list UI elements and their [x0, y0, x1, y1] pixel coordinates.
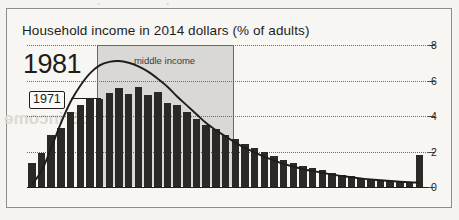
y-tick-label-2: 2 — [431, 146, 437, 158]
y-tick-label-4: 4 — [431, 110, 437, 122]
series-label-1971-leader-line — [71, 98, 101, 99]
series-label-1971: 1971 — [29, 91, 65, 109]
curve-path-1971 — [32, 61, 419, 184]
x-axis-baseline — [27, 187, 435, 188]
series-label-1981: 1981 — [23, 51, 81, 78]
chart-plot-area: middle income 02468 $0k$50k$100k$150k$20… — [27, 45, 428, 187]
scanned-figure-frame: ape-shifting US income distrib Household… — [6, 8, 452, 208]
y-tick-label-6: 6 — [431, 75, 437, 87]
y-tick-label-8: 8 — [431, 39, 437, 51]
chart-title: Household income in 2014 dollars (% of a… — [22, 23, 310, 38]
line-series-1971 — [27, 45, 428, 187]
y-tick-label-0: 0 — [431, 181, 437, 193]
